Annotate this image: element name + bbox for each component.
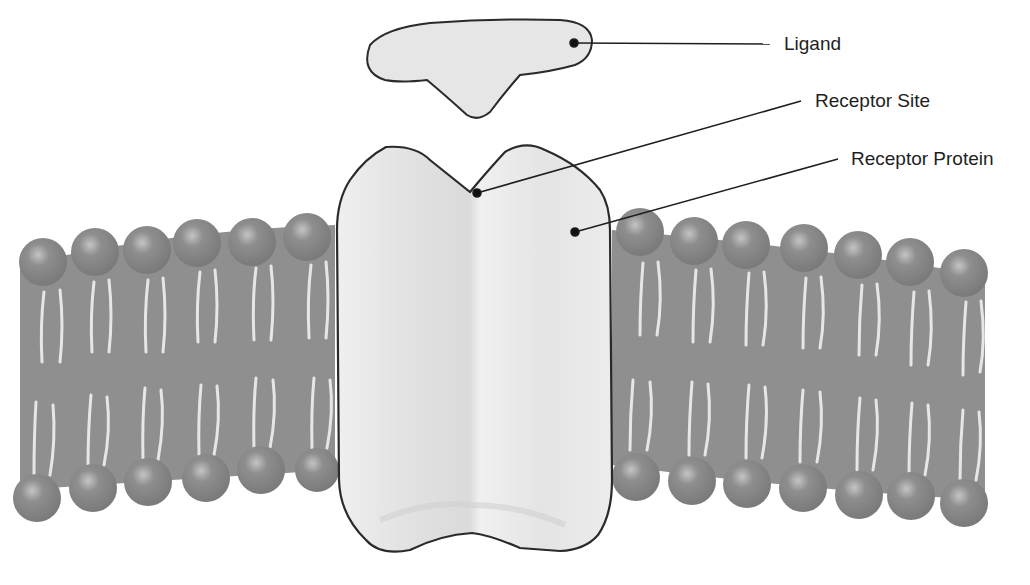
diagram-canvas — [0, 0, 1030, 585]
membrane-receptor-diagram: Ligand Receptor Site Receptor Protein — [0, 0, 1030, 585]
receptor-protein — [337, 145, 612, 551]
label-receptor-protein: Receptor Protein — [851, 148, 994, 170]
label-ligand: Ligand — [784, 33, 841, 55]
phospholipid-bilayer-left — [13, 213, 339, 522]
phospholipid-bilayer-right — [612, 208, 988, 527]
ligand-molecule — [367, 19, 592, 117]
label-receptor-site: Receptor Site — [815, 90, 930, 112]
